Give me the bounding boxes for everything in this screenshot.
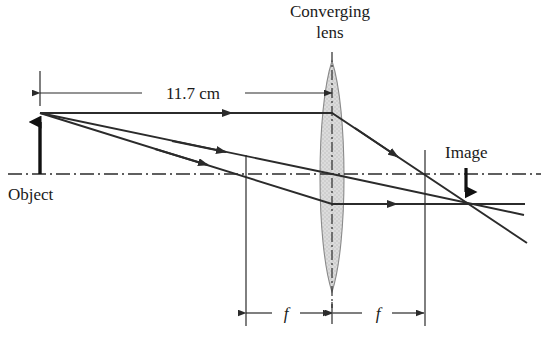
object-label: Object: [8, 185, 54, 204]
image-label: Image: [445, 143, 487, 162]
ray-parallel-out-arrowhead: [355, 128, 398, 157]
converging-lens-title-line2: lens: [316, 23, 343, 42]
ray-parallel: [40, 113, 527, 243]
focal-label-right: f: [376, 304, 383, 323]
focal-label-left: f: [284, 304, 291, 323]
converging-lens-title-line1: Converging: [290, 2, 370, 21]
distance-label: 11.7 cm: [166, 84, 220, 103]
ray-diagram-figure: Converging lens 11.7 cm Object Image f f: [0, 0, 541, 338]
ray-diagram-canvas: Converging lens 11.7 cm Object Image f f: [0, 0, 541, 338]
ray-chief: [40, 113, 524, 215]
ray-chief-arrowhead: [172, 141, 226, 152]
ray-focal-arrowhead: [155, 149, 208, 165]
